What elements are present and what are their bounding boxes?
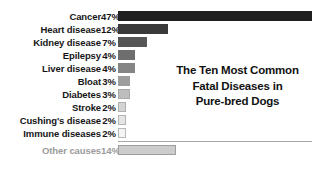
bar-value-label: 2% [101, 101, 116, 114]
bar-row: Cancer47% [0, 10, 325, 23]
bar-track [118, 10, 325, 23]
bar-row: Immune diseases2% [0, 127, 325, 140]
bar-label: Liver disease [0, 62, 101, 75]
bar-track [118, 23, 325, 36]
bar-value-label: 3% [101, 75, 116, 88]
bar-value-label: 4% [101, 62, 116, 75]
bar-row: Bloat3% [0, 75, 325, 88]
bar-row: Kidney disease7% [0, 36, 325, 49]
bar-value-label: 3% [101, 88, 116, 101]
bar [118, 63, 135, 73]
bar [118, 115, 126, 125]
bar-value-label: 2% [101, 114, 116, 127]
bar-track [118, 75, 325, 88]
bar [118, 76, 130, 86]
bar [118, 128, 126, 138]
bar-label: Stroke [0, 101, 101, 114]
bar-track [118, 127, 325, 140]
bar-value-label: 4% [101, 49, 116, 62]
bar-value-label: 12% [101, 23, 116, 36]
bar-label: Other causes [0, 144, 101, 157]
bar-row: Cushing's disease2% [0, 114, 325, 127]
bar-track [118, 88, 325, 101]
bar-row: Heart disease12% [0, 23, 325, 36]
bar-row: Stroke2% [0, 101, 325, 114]
bar-label: Cushing's disease [0, 114, 101, 127]
axis-baseline [118, 141, 312, 142]
bar [118, 37, 147, 47]
bar [118, 89, 130, 99]
bar-label: Cancer [0, 10, 101, 23]
bar-label: Heart disease [0, 23, 101, 36]
bar-track [118, 36, 325, 49]
bar-row: Diabetes3% [0, 88, 325, 101]
bar-label: Kidney disease [0, 36, 101, 49]
bar-row: Epilepsy4% [0, 49, 325, 62]
bar-label: Epilepsy [0, 49, 101, 62]
bar-track [118, 101, 325, 114]
bar-row: Other causes14% [0, 144, 325, 157]
bar [118, 145, 176, 155]
bar [118, 50, 135, 60]
bar-track [118, 62, 325, 75]
bar [118, 11, 312, 21]
bar-value-label: 2% [101, 127, 116, 140]
bar-value-label: 14% [101, 144, 116, 157]
bar-track [118, 144, 325, 157]
bar [118, 102, 126, 112]
bar-value-label: 47% [101, 10, 116, 23]
bar-label: Bloat [0, 75, 101, 88]
bar-row: Liver disease4% [0, 62, 325, 75]
bar-track [118, 49, 325, 62]
bar-value-label: 7% [101, 36, 116, 49]
bar-label: Immune diseases [0, 127, 101, 140]
bar-track [118, 114, 325, 127]
bar-label: Diabetes [0, 88, 101, 101]
bar [118, 24, 168, 34]
bar-chart: The Ten Most Common Fatal Diseases in Pu… [0, 0, 325, 189]
